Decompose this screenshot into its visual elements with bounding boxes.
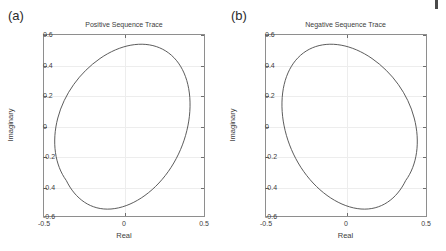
xtick-label-0.5: 0.5 (199, 220, 209, 227)
xtick-label--0.5: -0.5 (260, 220, 272, 227)
tick-labels-b: 0.6 0.4 0.2 0 -0.2 -0.4 -0.6 -0.5 0 0.5 (223, 0, 446, 251)
y-axis-label-a: Imaginary (6, 109, 15, 142)
xtick-label-0.5: 0.5 (421, 220, 431, 227)
x-axis-label-b: Real (265, 231, 426, 240)
tick-labels-a: 0.6 0.4 0.2 0 -0.2 -0.4 -0.6 -0.5 0 0.5 (0, 0, 223, 251)
xtick-label--0.5: -0.5 (38, 220, 50, 227)
x-axis-label-a: Real (43, 231, 205, 240)
xtick-label-0: 0 (344, 220, 348, 227)
y-axis-label-b: Imaginary (228, 109, 237, 142)
panel-positive-sequence: (a) Positive Sequence Trace (0, 0, 223, 251)
figure-canvas: (a) Positive Sequence Trace (0, 0, 446, 251)
xtick-label-0: 0 (122, 220, 126, 227)
panel-negative-sequence: (b) Negative Sequence Trace (223, 0, 446, 251)
